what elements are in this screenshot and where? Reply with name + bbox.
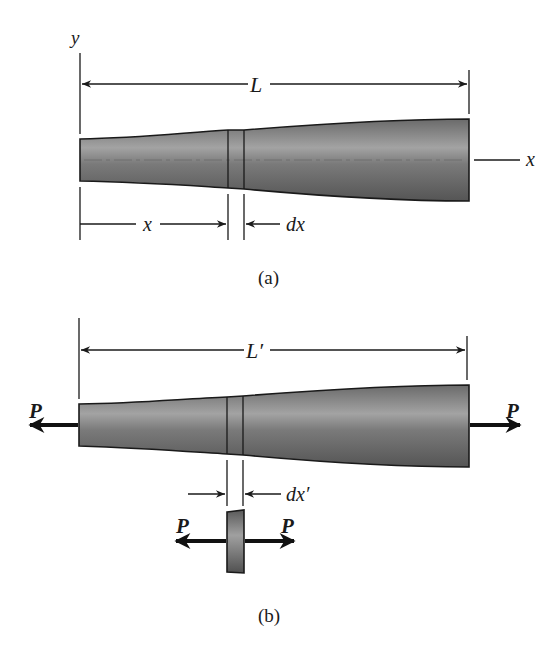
element-left-force-label: P xyxy=(175,514,189,538)
x-axis-label: x xyxy=(525,148,535,170)
tapered-bar-diagram: y L x x dx (a) L′ xyxy=(0,0,556,651)
deformed-element-label: dx′ xyxy=(286,483,310,505)
element-right-force-label: P xyxy=(280,514,294,538)
element-label: dx xyxy=(286,213,305,235)
caption-b: (b) xyxy=(258,605,280,627)
element-free-body xyxy=(227,510,244,573)
position-label: x xyxy=(142,213,152,235)
figure-b: L′ P P dx′ P P (b) xyxy=(28,318,520,627)
length-label: L xyxy=(249,72,262,97)
left-force-label: P xyxy=(28,399,42,423)
deformed-length-label: L′ xyxy=(245,338,264,363)
tapered-bar-loaded xyxy=(79,385,469,467)
y-axis-label: y xyxy=(69,27,80,48)
right-force-label: P xyxy=(505,399,519,423)
figure-a: y L x x dx (a) xyxy=(69,27,535,289)
caption-a: (a) xyxy=(258,267,279,289)
